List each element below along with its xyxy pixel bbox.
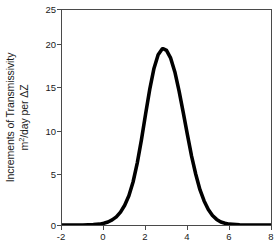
- data-curve: [62, 10, 271, 225]
- x-tick-mark-6: [229, 226, 230, 230]
- x-tick-mark-4: [187, 226, 188, 230]
- y-axis-title-text: Increments of Transmissivity m2/day per …: [5, 53, 32, 183]
- y-tick-label-5: 5: [51, 169, 56, 180]
- plot-area: [61, 9, 272, 226]
- x-tick-mark-0: [103, 226, 104, 230]
- y-axis-title-line2-superscript: 2: [17, 138, 26, 142]
- x-tick-mark--2: [61, 226, 62, 230]
- y-tick-label-20: 20: [45, 39, 56, 50]
- chart-figure: Increments of Transmissivity m2/day per …: [0, 0, 279, 249]
- y-axis-title-line2: m2/day per ΔZ: [18, 53, 32, 183]
- x-tick-label-4: 4: [177, 231, 197, 242]
- y-axis-title-line1: Increments of Transmissivity: [5, 53, 19, 183]
- y-tick-label-15: 15: [45, 82, 56, 93]
- series-line-increments-of-transmissivity: [62, 49, 271, 225]
- x-tick-mark-2: [145, 226, 146, 230]
- x-tick-label--2: -2: [51, 231, 71, 242]
- x-tick-label-6: 6: [219, 231, 239, 242]
- y-axis-title: Increments of Transmissivity m2/day per …: [0, 0, 36, 235]
- x-tick-label-0: 0: [93, 231, 113, 242]
- y-axis-title-line2-suffix: /day per ΔZ: [18, 85, 30, 138]
- y-tick-label-10: 10: [45, 126, 56, 137]
- y-tick-label-25: 25: [45, 4, 56, 15]
- x-tick-label-8: 8: [261, 231, 279, 242]
- x-tick-label-2: 2: [135, 231, 155, 242]
- y-tick-label-0: 0: [51, 220, 56, 231]
- x-tick-mark-8: [271, 226, 272, 230]
- y-axis-title-line2-prefix: m: [18, 142, 30, 151]
